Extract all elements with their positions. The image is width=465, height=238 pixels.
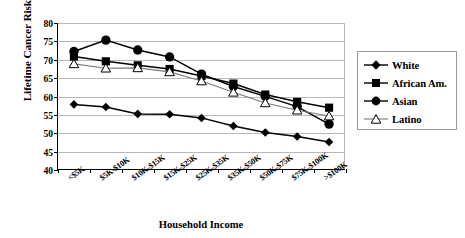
- y-tick-label: 45: [43, 146, 53, 157]
- series-latino: [69, 59, 334, 120]
- x-tick-mark: [346, 169, 347, 173]
- y-tick-label: 80: [43, 18, 53, 29]
- legend-item-latino: Latino: [358, 110, 456, 128]
- x-tick-mark: [186, 169, 187, 173]
- y-tick-label: 55: [43, 109, 53, 120]
- y-tick-label: 65: [43, 73, 53, 84]
- plot-area: 404550556065707580 <$5K$5K-$10K$10K-$15K…: [57, 23, 345, 170]
- x-tick-mark: [154, 169, 155, 173]
- x-tick-mark: [282, 169, 283, 173]
- legend-label: Asian: [392, 96, 417, 107]
- cancer-risk-by-income-chart: Lifetime Cancer Risk per 100,000 4045505…: [0, 0, 465, 238]
- series-layer: [58, 23, 345, 169]
- x-tick-mark: [122, 169, 123, 173]
- y-tick-label: 75: [43, 36, 53, 47]
- x-tick-mark: [218, 169, 219, 173]
- x-tick-mark: [58, 169, 59, 173]
- x-tick-mark: [250, 169, 251, 173]
- legend-key-filled-diamond-icon: [363, 58, 389, 72]
- y-tick-label: 70: [43, 54, 53, 65]
- legend-key-open-triangle-icon: [363, 112, 389, 126]
- legend-label: White: [392, 60, 419, 71]
- x-tick-mark: [90, 169, 91, 173]
- x-axis-title: Household Income: [57, 219, 345, 230]
- legend-item-white: White: [358, 56, 456, 74]
- legend-label: African Am.: [392, 78, 447, 89]
- legend-key-filled-square-icon: [363, 76, 389, 90]
- y-tick-label: 40: [43, 165, 53, 176]
- x-tick-mark: [314, 169, 315, 173]
- y-axis-title: Lifetime Cancer Risk per 100,000: [21, 0, 37, 107]
- legend-label: Latino: [392, 114, 421, 125]
- legend-item-asian: Asian: [358, 92, 456, 110]
- y-tick-label: 60: [43, 91, 53, 102]
- legend-item-african-am: African Am.: [358, 74, 456, 92]
- legend: White African Am. Asian Latino: [357, 51, 457, 130]
- legend-key-filled-circle-icon: [363, 94, 389, 108]
- y-tick-label: 50: [43, 128, 53, 139]
